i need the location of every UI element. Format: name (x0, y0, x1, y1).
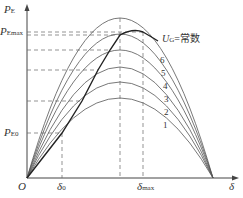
delta0-label: δ0 (57, 181, 66, 192)
x-axis-label: δ (229, 181, 234, 192)
y-axis-label: PE (4, 4, 15, 15)
curve-label-1: 1 (163, 121, 168, 130)
ug-constant-curve (27, 31, 158, 178)
curve-label-2: 2 (164, 108, 169, 117)
curve-label-4: 4 (163, 82, 168, 91)
power-angle-diagram (0, 0, 243, 198)
ug-annotation: UG=常数 (162, 34, 200, 44)
pemax-label: PEmax (0, 26, 23, 37)
curve-label-3: 3 (164, 95, 169, 104)
origin-label: O (18, 181, 26, 192)
pe0-label: PE0 (4, 127, 19, 138)
curve-label-6: 6 (160, 56, 165, 65)
deltamax-label: δmax (137, 181, 154, 192)
curve-label-5: 5 (161, 69, 166, 78)
